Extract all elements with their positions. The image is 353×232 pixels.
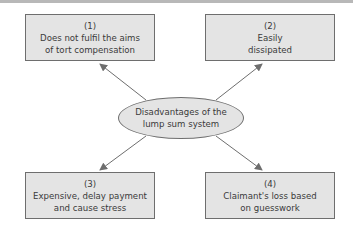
box-number: (1) [84, 20, 96, 32]
arrow-to-box-4 [216, 136, 262, 170]
box-line-2: dissipated [248, 44, 292, 56]
box-line-1: Expensive, delay payment [33, 190, 147, 202]
box-line-1: Claimant's loss based [223, 190, 316, 202]
box-line-2: of tort compensation [45, 44, 135, 56]
box-1: (1) Does not fulfil the aims of tort com… [25, 14, 155, 61]
center-line-2: lump sum system [143, 118, 220, 130]
box-line-2: and cause stress [54, 202, 126, 214]
box-line-2: on guesswork [240, 202, 299, 214]
box-line-1: Does not fulfil the aims [40, 32, 140, 44]
box-4: (4) Claimant's loss based on guesswork [205, 172, 335, 219]
arrow-to-box-3 [100, 136, 146, 170]
center-line-1: Disadvantages of the [135, 106, 227, 118]
box-number: (3) [84, 178, 96, 190]
box-number: (2) [264, 20, 276, 32]
box-3: (3) Expensive, delay payment and cause s… [25, 172, 155, 219]
box-2: (2) Easily dissipated [205, 14, 335, 61]
box-line-1: Easily [257, 32, 282, 44]
arrow-to-box-1 [100, 64, 146, 100]
arrow-to-box-2 [216, 64, 262, 100]
box-number: (4) [264, 178, 276, 190]
center-node: Disadvantages of the lump sum system [118, 97, 244, 139]
